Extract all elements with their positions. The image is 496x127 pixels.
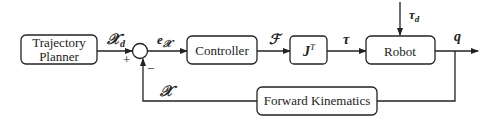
desired-pose-label: 𝒳d [106, 31, 126, 49]
feedback-label: 𝒳 [159, 83, 178, 99]
forward-kinematics-block: Forward Kinematics [257, 87, 377, 115]
trajectory-planner-block: Trajectory Planner [21, 35, 97, 64]
minus-sign: − [147, 61, 154, 76]
planner-label-line1: Trajectory [32, 35, 86, 50]
torque-label: τ [343, 32, 350, 47]
jacobian-transpose-block: JT [290, 36, 327, 64]
robot-label: Robot [384, 44, 416, 59]
error-label: e𝒳 [157, 32, 175, 49]
plus-sign: + [123, 52, 130, 67]
forward-kinematics-label: Forward Kinematics [264, 93, 371, 108]
disturbance-label: τd [409, 7, 420, 24]
controller-label: Controller [195, 43, 249, 58]
force-label: ℱ [269, 32, 283, 47]
controller-block: Controller [187, 36, 257, 64]
joint-output-label: q [454, 29, 461, 44]
planner-label-line2: Planner [39, 49, 79, 64]
control-block-diagram: Trajectory Planner 𝒳d + − e𝒳 Controller … [0, 0, 496, 127]
summing-junction [133, 44, 148, 59]
robot-block: Robot [366, 36, 435, 64]
